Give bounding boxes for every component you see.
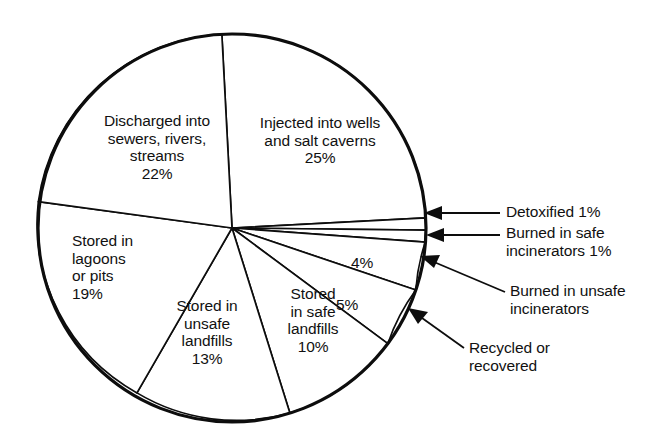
slice-label-stored-in-unsafe-landfills: Stored in unsafe landfills 13% [152, 297, 262, 367]
slice-label-injected-into-wells: Injected into wells and salt caverns 25% [236, 114, 404, 167]
callout-burned-unsafe [420, 255, 505, 292]
callout-recycled [408, 308, 464, 348]
pie-chart-figure: Discharged into sewers, rivers, streams … [0, 0, 672, 445]
pie-chart-svg [0, 0, 672, 445]
callout-label-detoxified: Detoxified 1% [506, 203, 666, 221]
callout-label-recycled-or-recovered: Recycled or recovered [469, 339, 619, 374]
arrow-head-burned-safe [426, 228, 444, 242]
callout-label-burned-safe-incinerators: Burned in safe incinerators 1% [506, 224, 668, 259]
callout-burned-safe [426, 228, 500, 242]
leader-line-recycled [422, 318, 464, 348]
callout-label-burned-unsafe-incinerators: Burned in unsafe incinerators [510, 282, 672, 317]
slice-label-stored-in-lagoons: Stored in lagoons or pits 19% [72, 232, 192, 302]
callout-detoxified [424, 206, 500, 220]
leader-line-burned-unsafe [434, 262, 505, 292]
slice-pct-recycled-or-recovered: 5% [336, 296, 358, 314]
arrow-head-recycled [408, 308, 428, 324]
slice-label-discharged-into-sewers: Discharged into sewers, rivers, streams … [78, 112, 236, 182]
slice-pct-burned-unsafe-incinerators: 4% [351, 254, 373, 272]
